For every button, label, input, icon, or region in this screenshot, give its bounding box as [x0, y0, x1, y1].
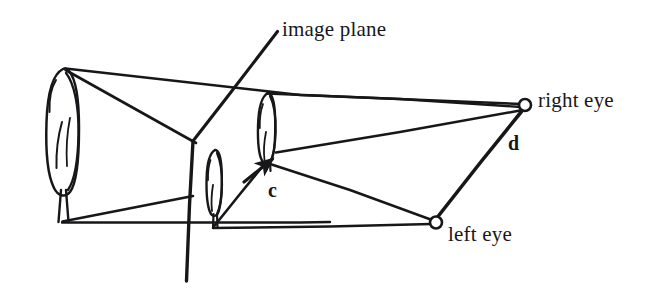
baseline-segment-d: [436, 112, 522, 220]
ray-bundle-left-eye: [213, 163, 432, 228]
tree-icon-near: [207, 150, 222, 228]
label-vector-c: c: [268, 180, 277, 200]
label-image-plane: image plane: [282, 19, 386, 40]
label-left-eye: left eye: [448, 224, 512, 245]
label-vector-d: d: [508, 133, 519, 153]
left-eye-node-icon: [430, 217, 442, 229]
stereo-geometry-figure: image plane right eye left eye c d: [0, 0, 667, 289]
tree-icon-far: [46, 69, 79, 222]
label-right-eye: right eye: [538, 90, 614, 111]
diagram-canvas: [0, 0, 667, 289]
right-eye-node-icon: [519, 99, 531, 111]
